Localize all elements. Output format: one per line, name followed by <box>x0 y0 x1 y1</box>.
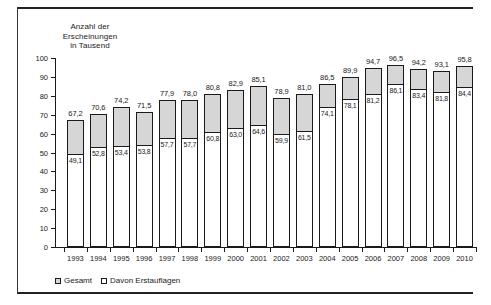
chart-bar: 70,652,8 <box>90 57 107 247</box>
bar-label-gesamt: 81,0 <box>297 83 311 92</box>
bar-label-erstauflagen: 74,1 <box>321 110 334 117</box>
bar-label-erstauflagen: 81,2 <box>367 97 380 104</box>
y-axis-caption-line-2: Erscheinungen <box>32 32 148 42</box>
y-axis-tick <box>51 209 56 210</box>
legend-swatch-gesamt <box>55 278 61 284</box>
bar-segment-gesamt <box>67 120 84 155</box>
x-axis-tick-label: 2003 <box>296 254 313 263</box>
bar-segment-gesamt <box>273 98 290 135</box>
y-axis-tick <box>51 58 56 59</box>
bar-segment-erstauflagen <box>159 138 176 247</box>
x-axis-tick <box>270 248 271 252</box>
legend-label-gesamt: Gesamt <box>64 276 92 285</box>
x-axis-tick-label: 1999 <box>204 254 221 263</box>
y-axis-tick <box>51 115 56 116</box>
x-axis-tick <box>476 248 477 252</box>
chart-bar: 95,884,4 <box>456 57 473 247</box>
bar-label-gesamt: 74,2 <box>114 96 128 105</box>
bar-label-gesamt: 94,7 <box>366 57 380 66</box>
y-axis-tick <box>51 134 56 135</box>
x-axis-tick-label: 2008 <box>410 254 427 263</box>
bar-label-erstauflagen: 64,6 <box>252 128 265 135</box>
bar-segment-gesamt <box>296 94 313 132</box>
bar-segment-erstauflagen <box>113 146 130 247</box>
x-axis-tick <box>247 248 248 252</box>
x-axis-tick-label: 2007 <box>388 254 405 263</box>
y-axis-tick <box>51 247 56 248</box>
chart-bar: 94,283,4 <box>410 57 427 247</box>
x-axis-tick-label: 1995 <box>113 254 130 263</box>
chart-legend: Gesamt Davon Erstauflagen <box>55 276 180 285</box>
bar-segment-gesamt <box>136 112 153 146</box>
bar-label-gesamt: 86,5 <box>320 73 334 82</box>
y-axis-tick-label: 20 <box>40 205 48 214</box>
x-axis-tick-label: 1997 <box>159 254 176 263</box>
chart-bar: 82,963,0 <box>227 57 244 247</box>
chart-bar: 78,057,7 <box>181 57 198 247</box>
legend-item-erstauflagen: Davon Erstauflagen <box>101 276 180 285</box>
x-axis-tick-label: 2002 <box>273 254 290 263</box>
bar-label-erstauflagen: 53,4 <box>115 149 128 156</box>
chart-bar: 77,957,7 <box>159 57 176 247</box>
bar-segment-erstauflagen <box>365 94 382 247</box>
page-rule-top <box>18 7 473 9</box>
x-axis-tick <box>407 248 408 252</box>
chart-plot-area: 010203040506070809010067,249,1199370,652… <box>55 58 477 248</box>
bar-segment-erstauflagen <box>296 131 313 247</box>
x-axis-tick-label: 1996 <box>136 254 153 263</box>
x-axis-tick-label: 1994 <box>90 254 107 263</box>
chart-bar: 81,061,5 <box>296 57 313 247</box>
y-axis-tick <box>51 190 56 191</box>
bar-label-gesamt: 80,8 <box>206 83 220 92</box>
bar-label-erstauflagen: 59,9 <box>275 137 288 144</box>
legend-item-gesamt: Gesamt <box>55 276 92 285</box>
x-axis-tick-label: 2009 <box>433 254 450 263</box>
y-axis-tick <box>51 228 56 229</box>
bar-segment-erstauflagen <box>250 125 267 247</box>
y-axis-tick-label: 0 <box>44 243 48 252</box>
bar-label-gesamt: 82,9 <box>229 79 243 88</box>
bar-label-gesamt: 94,2 <box>412 58 426 67</box>
bar-segment-gesamt <box>456 66 473 89</box>
bar-label-gesamt: 78,9 <box>274 87 288 96</box>
x-axis-tick <box>339 248 340 252</box>
bar-segment-erstauflagen <box>342 99 359 247</box>
y-axis-tick-label: 100 <box>35 54 48 63</box>
bar-label-erstauflagen: 57,7 <box>183 141 196 148</box>
x-axis-tick-label: 2001 <box>250 254 267 263</box>
bar-segment-erstauflagen <box>433 92 450 247</box>
y-axis-tick-label: 40 <box>40 167 48 176</box>
page-rule-bottom <box>18 292 473 294</box>
bar-label-gesamt: 89,9 <box>343 66 357 75</box>
bar-segment-gesamt <box>227 90 244 129</box>
x-axis-tick-label: 2006 <box>365 254 382 263</box>
bar-segment-erstauflagen <box>319 107 336 247</box>
x-axis-tick <box>453 248 454 252</box>
y-axis-tick-label: 70 <box>40 110 48 119</box>
x-axis-tick <box>178 248 179 252</box>
y-axis-tick-label: 90 <box>40 72 48 81</box>
bar-label-erstauflagen: 81,8 <box>435 95 448 102</box>
legend-swatch-erstauflagen <box>101 278 107 284</box>
bar-label-erstauflagen: 49,1 <box>69 157 82 164</box>
bar-segment-gesamt <box>181 100 198 139</box>
chart-bar: 74,253,4 <box>113 57 130 247</box>
bar-segment-erstauflagen <box>204 132 221 247</box>
bar-segment-gesamt <box>365 68 382 95</box>
x-axis-tick <box>156 248 157 252</box>
bar-segment-gesamt <box>250 86 267 126</box>
y-axis-tick-label: 60 <box>40 129 48 138</box>
chart-bar: 96,586,1 <box>387 57 404 247</box>
bar-segment-erstauflagen <box>273 134 290 247</box>
chart-bar: 80,860,8 <box>204 57 221 247</box>
chart-bar: 85,164,6 <box>250 57 267 247</box>
bar-label-erstauflagen: 84,4 <box>458 90 471 97</box>
x-axis-tick <box>293 248 294 252</box>
x-axis-tick <box>362 248 363 252</box>
figure-page: Anzahl der Erscheinungen in Tausend 0102… <box>0 0 491 305</box>
bar-label-erstauflagen: 60,8 <box>206 135 219 142</box>
chart-bar: 67,249,1 <box>67 57 84 247</box>
bar-segment-gesamt <box>433 71 450 93</box>
chart-bar: 89,978,1 <box>342 57 359 247</box>
bar-label-gesamt: 77,9 <box>160 89 174 98</box>
